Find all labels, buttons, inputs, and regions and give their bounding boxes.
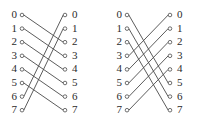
right-terminal-label: 3	[177, 50, 187, 61]
right-terminal-node	[63, 13, 67, 17]
right-terminal-node	[63, 95, 67, 99]
right-terminal-node	[168, 81, 172, 85]
left-terminal-node	[20, 54, 24, 58]
left-terminal-label: 5	[7, 77, 17, 88]
connection-wire	[24, 15, 63, 97]
right-terminal-label: 2	[72, 36, 82, 47]
right-terminal-node	[168, 40, 172, 44]
right-terminal-label: 6	[72, 91, 82, 102]
right-terminal-label: 0	[72, 9, 82, 20]
left-terminal-label: 2	[7, 36, 17, 47]
left-terminal-label: 6	[112, 91, 122, 102]
left-terminal-node	[20, 13, 24, 17]
left-terminal-label: 1	[7, 23, 17, 34]
figure-canvas: 0011223344556677 0011223344556677	[0, 0, 210, 124]
right-terminal-node	[168, 108, 172, 112]
left-terminal-label: 0	[112, 9, 122, 20]
left-terminal-node	[125, 81, 129, 85]
right-terminal-label: 7	[72, 104, 82, 115]
right-terminal-label: 4	[177, 63, 187, 74]
left-terminal-node	[125, 13, 129, 17]
left-terminal-node	[125, 54, 129, 58]
connection-wire	[24, 15, 63, 42]
right-terminal-label: 3	[72, 50, 82, 61]
right-terminal-node	[168, 54, 172, 58]
right-terminal-node	[168, 13, 172, 17]
connection-wire	[24, 83, 63, 110]
right-terminal-label: 5	[177, 77, 187, 88]
left-terminal-node	[20, 27, 24, 31]
left-terminal-node	[125, 40, 129, 44]
left-terminal-node	[125, 27, 129, 31]
right-terminal-label: 5	[72, 77, 82, 88]
left-terminal-label: 7	[112, 104, 122, 115]
right-terminal-node	[63, 27, 67, 31]
left-terminal-node	[125, 108, 129, 112]
right-terminal-label: 0	[177, 9, 187, 20]
left-terminal-label: 5	[112, 77, 122, 88]
left-terminal-label: 1	[112, 23, 122, 34]
left-terminal-label: 3	[7, 50, 17, 61]
left-terminal-node	[20, 108, 24, 112]
left-terminal-label: 4	[112, 63, 122, 74]
right-terminal-node	[63, 68, 67, 72]
right-terminal-node	[63, 40, 67, 44]
right-terminal-label: 1	[72, 23, 82, 34]
right-terminal-node	[168, 95, 172, 99]
right-terminal-node	[168, 27, 172, 31]
right-terminal-label: 1	[177, 23, 187, 34]
left-terminal-node	[20, 68, 24, 72]
right-terminal-label: 6	[177, 91, 187, 102]
right-terminal-label: 4	[72, 63, 82, 74]
connection-wire	[24, 29, 63, 111]
left-terminal-node	[20, 81, 24, 85]
connection-wire	[24, 69, 63, 96]
right-terminal-node	[63, 54, 67, 58]
right-terminal-label: 7	[177, 104, 187, 115]
left-terminal-label: 3	[112, 50, 122, 61]
right-terminal-node	[63, 81, 67, 85]
left-terminal-label: 6	[7, 91, 17, 102]
permutation-diagram-left: 0011223344556677	[0, 0, 105, 124]
left-terminal-node	[125, 68, 129, 72]
right-terminal-label: 2	[177, 36, 187, 47]
left-terminal-label: 7	[7, 104, 17, 115]
left-terminal-label: 0	[7, 9, 17, 20]
right-terminal-node	[168, 68, 172, 72]
left-terminal-node	[20, 40, 24, 44]
right-terminal-node	[63, 108, 67, 112]
permutation-diagram-right: 0011223344556677	[105, 0, 210, 124]
left-terminal-node	[20, 95, 24, 99]
left-terminal-label: 4	[7, 63, 17, 74]
left-terminal-label: 2	[112, 36, 122, 47]
left-terminal-node	[125, 95, 129, 99]
connection-wire	[24, 29, 63, 56]
